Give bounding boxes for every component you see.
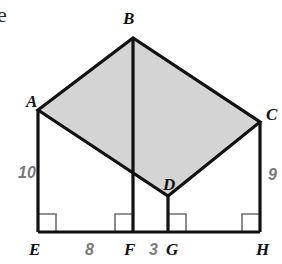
vertex-label-f: F: [123, 240, 136, 259]
measure-label-ch: 9: [268, 166, 277, 183]
vertex-label-e: E: [28, 240, 40, 259]
right-angle-at-H-icon: [242, 214, 260, 232]
vertex-label-d: D: [162, 175, 175, 194]
right-angle-at-E-icon: [38, 214, 56, 232]
right-angle-at-F-icon: [115, 214, 133, 232]
vertex-label-a: A: [25, 92, 37, 111]
measure-label-ae: 10: [18, 164, 36, 181]
diagram-canvas: e A B C D E F G H: [0, 0, 282, 264]
measure-label-ef: 8: [85, 241, 94, 258]
right-angle-at-G-icon: [168, 214, 186, 232]
vertex-label-h: H: [255, 240, 270, 259]
geometry-figure: e A B C D E F G H: [0, 0, 282, 264]
measure-label-fg: 3: [149, 241, 158, 258]
vertex-label-b: B: [122, 9, 134, 28]
stray-text-fragment: e: [0, 2, 7, 27]
vertex-label-g: G: [166, 240, 179, 259]
vertex-label-c: C: [266, 105, 278, 124]
shaded-quadrilateral-abcd: [38, 38, 260, 196]
right-angle-marks: [38, 214, 260, 232]
